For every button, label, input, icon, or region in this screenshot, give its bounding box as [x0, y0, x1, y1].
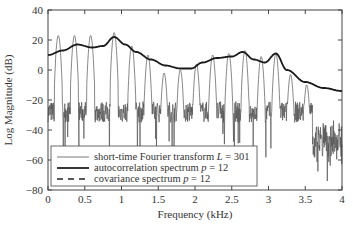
y-tick-label: 40 [32, 4, 44, 16]
y-tick-label: 0 [38, 64, 44, 76]
x-tick-label: 1.5 [151, 193, 165, 205]
legend: short-time Fourier transform L = 301 aut… [51, 146, 257, 186]
y-tick-label: 20 [32, 34, 44, 46]
x-tick-label: 2 [192, 193, 198, 205]
y-tick-label: −20 [26, 94, 44, 106]
y-tick-label: −60 [26, 154, 44, 166]
y-tick-label: −80 [26, 184, 44, 196]
x-tick-label: 4 [339, 193, 345, 205]
legend-label-autocorrelation: autocorrelation spectrum p = 12 [94, 162, 228, 173]
legend-label-stft: short-time Fourier transform L = 301 [94, 151, 250, 162]
x-tick-label: 3.5 [298, 193, 312, 205]
legend-label-covariance: covariance spectrum p = 12 [94, 173, 210, 184]
y-tick-label: −40 [26, 124, 44, 136]
x-tick-label: 3 [266, 193, 272, 205]
x-tick-label: 0.5 [78, 193, 92, 205]
x-tick-label: 2.5 [225, 193, 239, 205]
x-tick-label: 0 [45, 193, 51, 205]
x-tick-label: 1 [119, 193, 125, 205]
x-axis-label: Frequency (kHz) [158, 208, 233, 221]
y-axis-label: Log Magnitude (dB) [2, 54, 15, 145]
spectrum-chart: 00.511.522.533.5440200−20−40−60−80 short… [0, 0, 353, 230]
